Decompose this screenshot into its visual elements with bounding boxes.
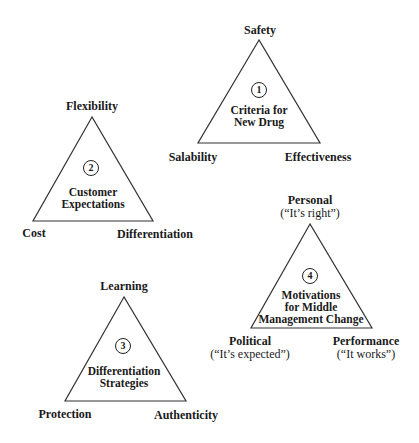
triangle-4-title-line: for Middle (258, 301, 363, 313)
triangle-3-left-label: Protection (38, 408, 91, 420)
triangle-2-title-line: Expectations (61, 198, 124, 210)
triangle-3-title-line: Differentiation (88, 365, 161, 377)
triangle-4-left-label: Political (229, 335, 271, 347)
triangle-1-title-line: Criteria for (230, 104, 287, 116)
triangle-2-number-badge: 2 (83, 160, 99, 176)
triangle-4-right-label: Performance (333, 335, 400, 347)
triangle-1-right-label: Effectiveness (285, 151, 352, 163)
triangle-3-number-badge: 3 (115, 338, 131, 354)
triangle-3-top-label: Learning (100, 280, 147, 292)
triangle-4-right-sublabel: (“It works”) (337, 348, 395, 360)
triangle-2-title: Customer Expectations (61, 186, 124, 210)
triangle-4-top-sublabel: (“It’s right”) (280, 207, 340, 219)
triangle-2-title-line: Customer (61, 186, 124, 198)
triangle-4-number-badge: 4 (302, 268, 318, 284)
triangle-4-title-line: Management Change (258, 313, 363, 325)
triangle-2-right-label: Differentiation (117, 228, 193, 240)
triangle-3-right-label: Authenticity (154, 409, 218, 421)
triangle-1-number-badge: 1 (251, 82, 267, 98)
triangle-1-title-line: New Drug (230, 116, 287, 128)
triangle-3-title: Differentiation Strategies (88, 365, 161, 389)
triangle-4-title: Motivations for Middle Management Change (258, 289, 363, 325)
triangle-4-top-label: Personal (288, 194, 333, 206)
triangle-2-top-label: Flexibility (66, 100, 118, 112)
triangle-1-title: Criteria for New Drug (230, 104, 287, 128)
triangle-3-title-line: Strategies (88, 377, 161, 389)
triangle-1-left-label: Salability (169, 151, 218, 163)
triangle-4-title-line: Motivations (258, 289, 363, 301)
triangle-4-left-sublabel: (“It’s expected”) (210, 348, 290, 360)
triangle-2-left-label: Cost (22, 227, 45, 239)
triangle-outlines (0, 0, 419, 443)
triangle-1-top-label: Safety (244, 24, 276, 36)
